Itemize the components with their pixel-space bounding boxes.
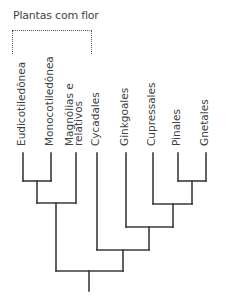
phylogenetic-tree [0, 0, 226, 304]
